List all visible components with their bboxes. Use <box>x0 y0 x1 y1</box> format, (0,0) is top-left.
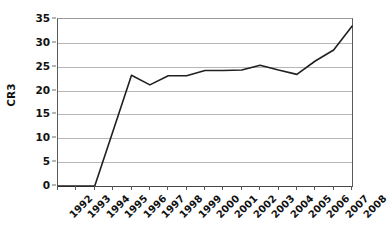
y-tick-label: 30 <box>35 37 50 48</box>
x-tick-mark <box>204 186 205 190</box>
y-tick-label: 0 <box>43 180 50 191</box>
y-tick-mark <box>52 89 56 90</box>
y-tick-mark <box>52 18 56 19</box>
x-tick-mark <box>241 186 242 190</box>
x-tick-mark <box>112 186 113 190</box>
y-tick-label: 25 <box>35 60 50 71</box>
y-axis-title-text: CR3 <box>5 83 17 107</box>
y-tick-mark <box>52 65 56 66</box>
y-axis-tick-labels: 05101520253035 <box>22 18 56 185</box>
x-tick-mark <box>296 186 297 190</box>
series-line-cr3 <box>58 19 352 186</box>
x-tick-mark <box>278 186 279 190</box>
y-tick-mark <box>52 137 56 138</box>
x-tick-mark <box>149 186 150 190</box>
y-axis-title: CR3 <box>0 0 22 190</box>
x-tick-mark <box>167 186 168 190</box>
y-tick-label: 5 <box>43 156 50 167</box>
y-tick-mark <box>52 41 56 42</box>
y-tick-mark <box>52 113 56 114</box>
x-axis: 1992199319941995199619971998199920002001… <box>57 186 352 230</box>
y-tick-label: 10 <box>35 132 50 143</box>
y-tick-mark <box>52 185 56 186</box>
x-tick-mark <box>314 186 315 190</box>
x-tick-mark <box>186 186 187 190</box>
x-tick-mark <box>94 186 95 190</box>
series-polyline <box>58 26 352 186</box>
x-tick-mark <box>259 186 260 190</box>
x-tick-mark <box>75 186 76 190</box>
x-tick-mark <box>333 186 334 190</box>
plot-area <box>57 18 353 187</box>
y-tick-label: 20 <box>35 84 50 95</box>
y-tick-label: 35 <box>35 13 50 24</box>
x-tick-mark <box>351 186 352 190</box>
x-tick-mark <box>222 186 223 190</box>
x-tick-mark <box>57 186 58 190</box>
y-tick-label: 15 <box>35 108 50 119</box>
y-tick-mark <box>52 161 56 162</box>
x-tick-mark <box>131 186 132 190</box>
